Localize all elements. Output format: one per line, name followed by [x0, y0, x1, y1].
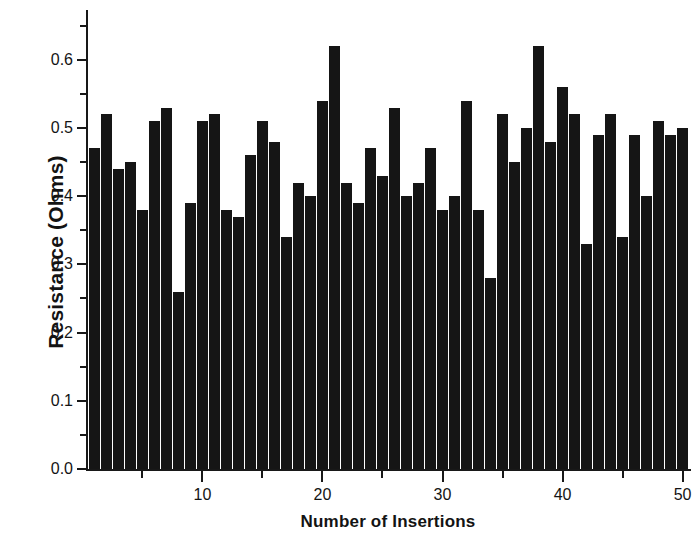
bar: [257, 121, 267, 469]
bar: [545, 142, 555, 469]
y-tick-mark: [77, 127, 88, 129]
x-minor-tick-mark: [381, 471, 383, 478]
bar: [497, 114, 507, 469]
bar: [485, 278, 495, 469]
bar: [161, 108, 171, 469]
x-axis-title: Number of Insertions: [86, 512, 690, 532]
bar: [449, 196, 459, 469]
x-tick-mark: [321, 471, 323, 482]
x-minor-tick-mark: [622, 471, 624, 478]
x-tick-label: 20: [314, 486, 332, 504]
y-tick-label: 0.4: [51, 187, 73, 205]
x-minor-tick-mark: [141, 471, 143, 478]
x-tick-mark: [682, 471, 684, 482]
y-axis-title: Resistance (Ohms): [44, 92, 68, 412]
bar: [113, 169, 123, 469]
y-tick-mark: [77, 400, 88, 402]
bar: [581, 244, 591, 469]
x-tick-label: 10: [194, 486, 212, 504]
y-tick-label: 0.2: [51, 324, 73, 342]
bar: [317, 101, 327, 469]
y-tick-mark: [77, 332, 88, 334]
y-tick-mark: [77, 59, 88, 61]
bar: [101, 114, 111, 469]
y-minor-tick-mark: [80, 366, 88, 368]
bar: [641, 196, 651, 469]
x-tick-mark: [562, 471, 564, 482]
bar: [341, 183, 351, 469]
x-tick-mark: [201, 471, 203, 482]
bar: [293, 183, 303, 469]
y-tick-label: 0.5: [51, 119, 73, 137]
bar: [509, 162, 519, 469]
bar: [281, 237, 291, 469]
y-tick-label: 0.1: [51, 392, 73, 410]
x-minor-tick-mark: [502, 471, 504, 478]
bar: [665, 135, 675, 469]
y-minor-tick-mark: [80, 161, 88, 163]
y-minor-tick-mark: [80, 93, 88, 95]
bar: [137, 210, 147, 469]
x-tick-label: 30: [434, 486, 452, 504]
bar: [461, 101, 471, 469]
bar: [329, 46, 339, 469]
y-minor-tick-mark: [80, 297, 88, 299]
bar: [269, 142, 279, 469]
bar: [533, 46, 543, 469]
y-tick-label: 0.0: [51, 460, 73, 478]
y-tick-label: 0.6: [51, 51, 73, 69]
bar: [521, 128, 531, 469]
bar: [89, 148, 99, 469]
x-minor-tick-mark: [261, 471, 263, 478]
bar: [473, 210, 483, 469]
bar: [185, 203, 195, 469]
bar: [389, 108, 399, 469]
bar: [245, 155, 255, 469]
x-tick-label: 40: [554, 486, 572, 504]
y-minor-tick-mark: [80, 434, 88, 436]
y-minor-tick-mark: [80, 229, 88, 231]
bar-series: [88, 10, 691, 469]
y-minor-tick-mark: [80, 25, 88, 27]
bar: [413, 183, 423, 469]
bar: [149, 121, 159, 469]
bar: [437, 210, 447, 469]
bar: [425, 148, 435, 469]
bar: [605, 114, 615, 469]
bar: [173, 292, 183, 469]
y-tick-mark: [77, 263, 88, 265]
bar: [365, 148, 375, 469]
bar: [653, 121, 663, 469]
bar: [557, 87, 567, 469]
bar: [617, 237, 627, 469]
bar-chart-figure: Resistance (Ohms) 0.00.10.20.30.40.50.6 …: [0, 0, 693, 539]
bar: [401, 196, 411, 469]
y-tick-mark: [77, 468, 88, 470]
bar: [305, 196, 315, 469]
bar: [569, 114, 579, 469]
x-tick-mark: [442, 471, 444, 482]
bar: [377, 176, 387, 469]
bar: [593, 135, 603, 469]
y-tick-label: 0.3: [51, 255, 73, 273]
plot-area: 0.00.10.20.30.40.50.6 1020304050: [86, 10, 691, 471]
x-tick-label: 50: [674, 486, 692, 504]
bar: [209, 114, 219, 469]
bar: [233, 217, 243, 469]
y-tick-mark: [77, 195, 88, 197]
bar: [353, 203, 363, 469]
bar: [197, 121, 207, 469]
bar: [125, 162, 135, 469]
bar: [629, 135, 639, 469]
bar: [221, 210, 231, 469]
bar: [677, 128, 687, 469]
x-axis-line: [86, 469, 691, 471]
